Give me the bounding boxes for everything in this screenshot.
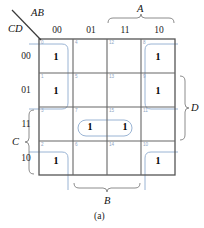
cell-index-7: 7	[75, 109, 78, 114]
cell-value-0: 1	[50, 52, 62, 62]
bracket-label-b: B	[104, 196, 110, 207]
bracket-bottom-B	[74, 183, 140, 192]
grouping-loops	[29, 44, 178, 190]
cell-index-4: 4	[75, 41, 78, 46]
cell-index-6: 6	[75, 143, 78, 148]
cell-index-9: 9	[143, 75, 146, 80]
cell-value-15: 1	[119, 122, 131, 132]
cell-value-9: 1	[152, 86, 164, 96]
cell-index-12: 12	[109, 41, 114, 46]
cell-index-5: 5	[75, 75, 78, 80]
cell-value-2: 1	[50, 156, 62, 166]
cell-index-15: 15	[109, 109, 114, 114]
bracket-label-a: A	[137, 4, 143, 15]
cell-index-2: 2	[41, 143, 44, 148]
bracket-label-c: C	[12, 137, 19, 148]
axis-label-ab: AB	[31, 8, 44, 19]
column-header-10: 10	[149, 26, 169, 36]
cell-value-8: 1	[152, 52, 164, 62]
kmap-graphics	[0, 0, 204, 228]
row-header-00: 00	[16, 52, 36, 62]
figure-caption: (a)	[94, 212, 105, 222]
row-header-10: 10	[16, 154, 36, 164]
column-header-01: 01	[81, 26, 101, 36]
cell-index-13: 13	[109, 75, 114, 80]
cell-value-7: 1	[84, 122, 96, 132]
bracket-right-D	[180, 76, 189, 140]
cell-index-1: 1	[41, 75, 44, 80]
bracket-top-A	[108, 14, 174, 23]
karnaugh-map-figure: AB CD 00 01 11 10 00 01 11 10 A B C D 0 …	[0, 0, 204, 228]
cell-index-0: 0	[41, 41, 44, 46]
cell-index-14: 14	[109, 143, 114, 148]
axis-label-cd: CD	[8, 24, 23, 35]
row-header-11: 11	[16, 120, 36, 130]
cell-index-10: 10	[143, 143, 148, 148]
cell-value-1: 1	[50, 86, 62, 96]
cell-value-10: 1	[152, 156, 164, 166]
row-header-01: 01	[16, 86, 36, 96]
cell-index-8: 8	[143, 41, 146, 46]
column-header-11: 11	[115, 26, 135, 36]
column-header-00: 00	[47, 26, 67, 36]
cell-index-3: 3	[41, 109, 44, 114]
cell-index-11: 11	[143, 109, 148, 114]
bracket-label-d: D	[191, 103, 199, 114]
